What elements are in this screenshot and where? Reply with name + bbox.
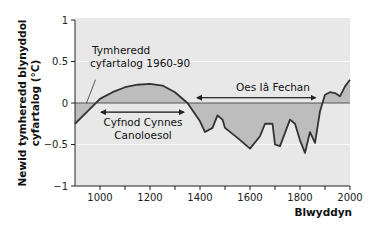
y-axis-title-line: cyfartalog (°C): [29, 60, 41, 147]
x-tick-label: 2000: [337, 192, 362, 203]
label-baseline: Tymheredd: [91, 44, 150, 56]
x-tick-label: 1000: [87, 192, 112, 203]
y-tick-label: −1: [53, 181, 68, 192]
label-baseline: cyfartalog 1960-90: [90, 57, 190, 69]
y-axis-title: Newid tymheredd blynyddolcyfartalog (°C): [16, 20, 41, 187]
x-axis-title: Blwyddyn: [295, 206, 353, 218]
y-axis-title-line: Newid tymheredd blynyddol: [16, 20, 28, 187]
y-tick-label: 0.5: [52, 56, 68, 67]
y-tick-label: 1: [62, 15, 68, 26]
x-tick-label: 1200: [137, 192, 162, 203]
y-tick-label: −0.5: [44, 139, 68, 150]
x-tick-label: 1400: [187, 192, 212, 203]
y-tick-label: 0: [62, 98, 68, 109]
x-tick-label: 1800: [287, 192, 312, 203]
label-medieval-warm-period: Canoloesol: [114, 129, 171, 141]
label-little-ice-age: Oes Iâ Fechan: [236, 81, 310, 93]
x-tick-label: 1600: [237, 192, 262, 203]
temperature-chart: 10.50−0.5−1100012001400160018002000 Tymh…: [0, 0, 378, 234]
label-medieval-warm-period: Cyfnod Cynnes: [103, 116, 182, 128]
